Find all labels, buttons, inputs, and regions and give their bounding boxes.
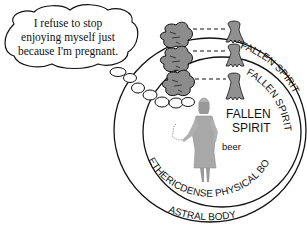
thought-line-2: enjoying myself just (21, 31, 116, 44)
fallen-label: FALLEN (226, 107, 271, 121)
fallen-spirit-diagram: I refuse to stop enjoying myself just be… (0, 0, 307, 225)
dark-blob-1 (160, 22, 192, 47)
fallen-spirit-figure-3 (226, 73, 244, 100)
fallen-spirit-figure-1 (226, 21, 244, 43)
dashed-connectors (193, 29, 226, 79)
thought-line-1: I refuse to stop (34, 17, 103, 30)
dark-blob-2 (160, 46, 192, 71)
beer-label: beer (222, 141, 241, 152)
thought-line-3: because I'm pregnant. (18, 45, 118, 58)
thought-bubble: I refuse to stop enjoying myself just be… (5, 5, 138, 69)
spirit-label: SPIRIT (232, 121, 271, 135)
dark-blob-3 (162, 70, 194, 95)
pregnant-woman-figure (172, 98, 218, 182)
